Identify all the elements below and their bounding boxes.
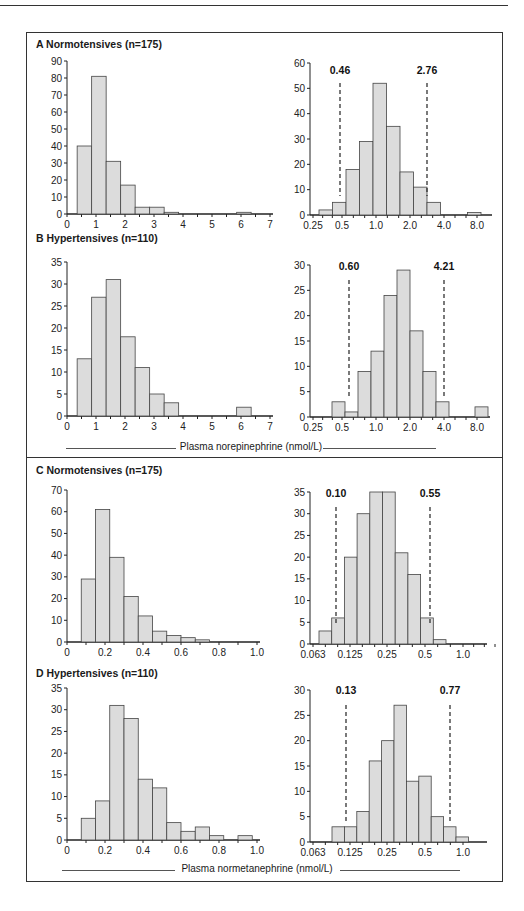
x-tick-label: 0.25 <box>377 649 397 660</box>
x-tick-label: 4 <box>180 421 186 432</box>
histogram-bar <box>96 801 110 840</box>
y-tick-label: 35 <box>51 683 63 694</box>
histogram-bar <box>92 76 107 214</box>
xlabel-rule-left-2 <box>62 870 175 871</box>
histogram-bar <box>138 616 152 642</box>
histogram-bar <box>382 741 394 842</box>
y-tick-label: 10 <box>294 786 306 797</box>
x-tick-label: 0.2 <box>98 845 112 856</box>
histogram-bar <box>400 172 414 215</box>
y-tick-label: 0 <box>56 637 62 648</box>
histogram-bar <box>96 510 110 642</box>
x-tick-label: 0 <box>64 647 70 658</box>
x-tick-label: 7 <box>267 219 273 230</box>
histogram-bar <box>167 823 181 840</box>
y-tick-label: 5 <box>299 386 305 397</box>
histogram-bar <box>319 210 333 215</box>
histogram-bar <box>332 618 345 644</box>
histogram-bar <box>433 640 446 644</box>
x-tick-label: 0.6 <box>174 647 188 658</box>
histogram-bar <box>121 337 135 416</box>
y-tick-label: 15 <box>51 345 63 356</box>
histogram-bar <box>124 718 138 840</box>
histogram-bar <box>344 827 356 842</box>
x-tick-label: 0.5 <box>418 847 432 858</box>
histogram-bar <box>456 837 468 842</box>
y-tick-label: 0 <box>299 412 305 423</box>
reference-label: 4.21 <box>434 260 455 272</box>
reference-label: 0.10 <box>326 487 347 499</box>
histogram-bar <box>358 371 371 417</box>
y-tick-label: 0 <box>299 837 305 848</box>
x-tick-label: 0.6 <box>174 845 188 856</box>
histogram-bar <box>153 788 167 840</box>
y-tick-label: 5 <box>299 617 305 628</box>
x-tick-label: 4.0 <box>437 220 451 231</box>
histogram-bar <box>333 202 347 215</box>
xlabel-rule-left <box>66 448 176 449</box>
y-tick-label: 30 <box>51 279 63 290</box>
histogram-bar <box>444 827 456 842</box>
y-tick-label: 90 <box>51 56 63 67</box>
histogram-bar <box>475 407 488 417</box>
histogram-bar <box>81 579 95 642</box>
x-tick-label: 5 <box>209 421 215 432</box>
histogram-bar <box>237 212 252 214</box>
y-tick-label: 30 <box>294 508 306 519</box>
x-tick-label: 0 <box>64 845 70 856</box>
x-tick-label: 2 <box>122 421 128 432</box>
x-tick-label: 1 <box>93 421 99 432</box>
histogram-bar <box>332 827 344 842</box>
y-tick-label: 35 <box>51 257 63 268</box>
histogram-bar <box>346 169 360 215</box>
x-tick-label: 1.0 <box>456 649 470 660</box>
histogram-bar <box>77 359 92 416</box>
x-axis-label-normetanephrine: Plasma normetanephrine (nmol/L) <box>176 863 338 874</box>
x-tick-label: 6 <box>238 421 244 432</box>
x-tick-label: 1.0 <box>250 647 264 658</box>
x-tick-label: 0.4 <box>136 647 150 658</box>
histogram-bar <box>395 553 408 644</box>
y-tick-label: 10 <box>51 791 63 802</box>
y-tick-label: 80 <box>51 73 63 84</box>
y-tick-label: 30 <box>294 685 306 696</box>
y-tick-label: 5 <box>56 389 62 400</box>
y-tick-label: 25 <box>294 710 306 721</box>
y-tick-label: 15 <box>294 336 306 347</box>
x-tick-label: 0.125 <box>337 649 362 660</box>
y-tick-label: 20 <box>294 310 306 321</box>
reference-label: 0.77 <box>440 684 461 696</box>
y-tick-label: 40 <box>51 550 63 561</box>
histogram-bar <box>436 402 449 417</box>
histogram-bar <box>468 212 482 215</box>
y-tick-label: 0 <box>56 209 62 220</box>
histogram-bar <box>81 818 95 840</box>
x-tick-label: 8.0 <box>470 220 484 231</box>
x-tick-label: 0.2 <box>98 647 112 658</box>
reference-label: 0.60 <box>339 260 360 272</box>
y-tick-label: 40 <box>294 108 306 119</box>
histogram-bar <box>110 557 124 642</box>
x-tick-label: 1 <box>93 219 99 230</box>
histogram-bar <box>371 351 384 417</box>
y-tick-label: 10 <box>294 595 306 606</box>
chart-a-linear: 0102030405060708090012345670102030405060… <box>0 0 524 911</box>
histogram-bar <box>164 403 179 416</box>
x-tick-label: 6 <box>238 219 244 230</box>
histogram-bar <box>357 514 370 644</box>
y-tick-label: 20 <box>294 159 306 170</box>
histogram-bar <box>421 618 434 644</box>
x-tick-label: 3 <box>151 421 157 432</box>
y-tick-label: 50 <box>294 83 306 94</box>
histogram-bar <box>135 368 150 416</box>
histogram-bar <box>195 640 209 642</box>
reference-label: 0.55 <box>420 487 441 499</box>
histogram-bar <box>150 207 165 214</box>
reference-label: 0.13 <box>336 684 357 696</box>
x-tick-label: 7 <box>267 421 273 432</box>
x-tick-label: 0.5 <box>418 649 432 660</box>
x-tick-label: 2.0 <box>403 422 417 433</box>
histogram-bar <box>181 831 195 840</box>
histogram-bar <box>345 412 358 417</box>
histogram-bar <box>423 371 436 417</box>
